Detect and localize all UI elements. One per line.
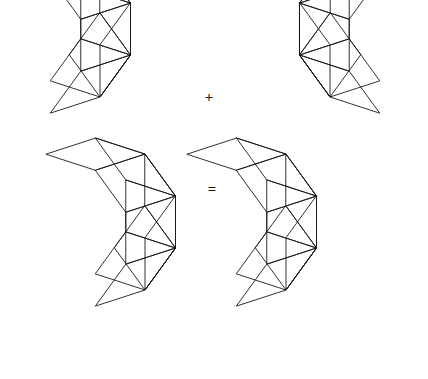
geometry-figure: += <box>0 0 428 379</box>
sum-right-decagon <box>187 138 316 306</box>
operator-plus: + <box>205 89 214 105</box>
rhombus-cell <box>299 0 379 3</box>
sum-left-decagon <box>46 138 175 306</box>
operator-equals: = <box>208 181 217 197</box>
rhombus-cell <box>46 138 145 170</box>
rhombus-cell <box>51 0 131 3</box>
rhombus-cell <box>187 138 286 170</box>
figure-canvas: += <box>0 0 428 379</box>
addend-right-decagon <box>299 0 428 113</box>
addend-left-decagon <box>1 0 130 113</box>
